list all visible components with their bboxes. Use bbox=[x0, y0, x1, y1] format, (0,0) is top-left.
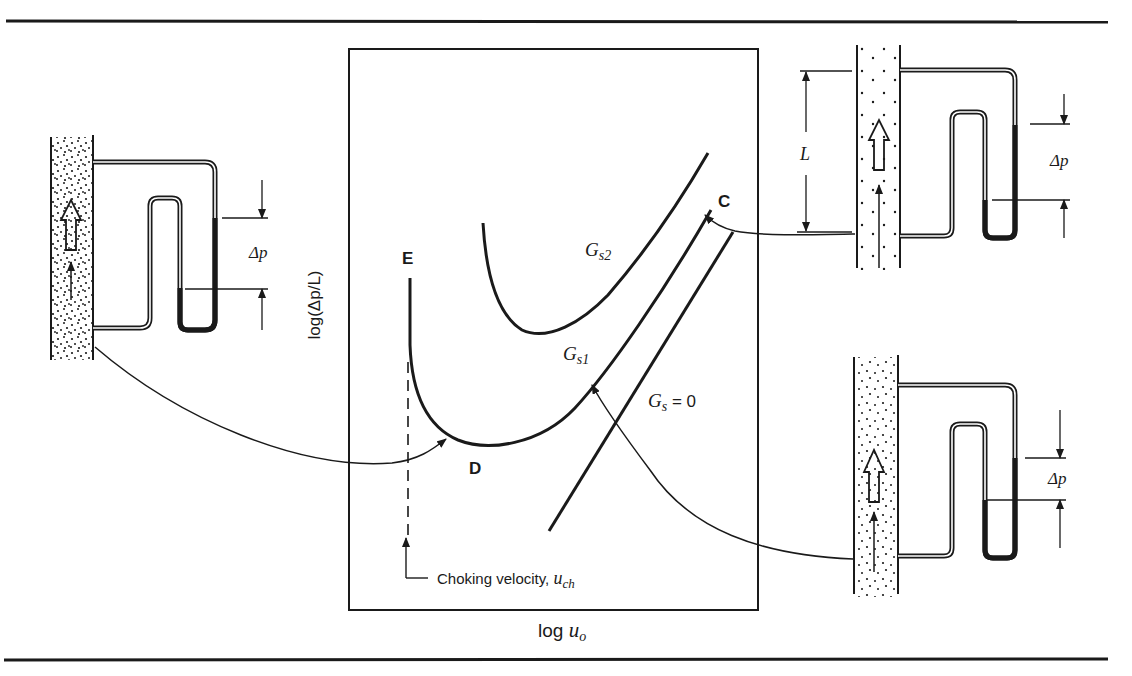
manometer-liquid-top-right bbox=[985, 125, 1015, 238]
point-label-e: E bbox=[402, 249, 413, 268]
manometer-liquid-left bbox=[180, 218, 215, 330]
point-label-d: D bbox=[469, 459, 481, 478]
choking-velocity-label: Choking velocity, uch bbox=[437, 568, 575, 591]
bottom-rule bbox=[4, 659, 1108, 660]
riser-tube-bottom-right bbox=[854, 357, 898, 597]
length-label-top-right: L bbox=[799, 144, 810, 164]
riser-tube-left bbox=[51, 137, 93, 360]
dp-label-top-right: Δp bbox=[1049, 151, 1068, 170]
curve-label-gs0: Gs = 0 bbox=[648, 390, 696, 414]
top-rule bbox=[6, 21, 1108, 22]
manometer-top-right: Δp L bbox=[797, 45, 1070, 270]
connector-bottom-right-to-gs1 bbox=[592, 385, 853, 559]
dp-label-bottom-right: Δp bbox=[1047, 469, 1066, 488]
dp-label-left: Δp bbox=[248, 243, 267, 262]
point-label-c: C bbox=[718, 192, 730, 211]
curve-label-gs1: Gs1 bbox=[563, 343, 589, 367]
manometer-left: Δp bbox=[51, 135, 268, 360]
manometer-bottom-right: Δp bbox=[854, 355, 1066, 597]
curve-label-gs2: Gs2 bbox=[585, 239, 611, 263]
curve-gs-zero bbox=[549, 232, 733, 531]
chart-panel: log(Δp/L) log uo Choking velocity, uch E… bbox=[305, 49, 758, 644]
manometer-liquid-bottom-right bbox=[985, 458, 1015, 558]
y-axis-label: log(Δp/L) bbox=[305, 271, 324, 340]
connector-left-to-d bbox=[95, 347, 446, 464]
x-axis-label: log uo bbox=[538, 618, 586, 644]
pneumatic-transport-diagram: log(Δp/L) log uo Choking velocity, uch E… bbox=[0, 0, 1132, 676]
